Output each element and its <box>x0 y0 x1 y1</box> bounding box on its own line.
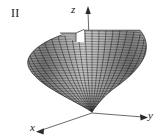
panel-label: II <box>11 7 20 19</box>
surface-mesh <box>20 28 152 112</box>
axis-line-x <box>42 113 92 130</box>
axis-label-z: z <box>71 4 75 15</box>
surface-plot-canvas <box>0 0 164 140</box>
arrow-up-icon <box>85 6 90 14</box>
axis-line-y <box>92 113 143 117</box>
surface-plot-figure: II z y x <box>0 0 164 140</box>
arrow-left-icon <box>36 128 44 134</box>
axis-label-x: x <box>30 122 35 133</box>
axis-label-y: y <box>148 110 153 121</box>
arrow-right-icon <box>140 114 148 120</box>
